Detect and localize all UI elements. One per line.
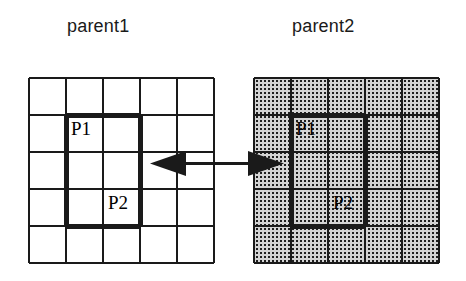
arrow-head-left bbox=[150, 151, 186, 176]
parent1-label-p2: P2 bbox=[108, 193, 128, 212]
parent1-label-p1: P1 bbox=[71, 119, 91, 138]
diagram-canvas: parent1 parent2 bbox=[0, 0, 466, 281]
parent2-label-p2: P2 bbox=[333, 193, 353, 212]
parent1-title: parent1 bbox=[67, 16, 129, 37]
exchange-arrow-icon bbox=[146, 146, 288, 182]
arrow-head-right bbox=[248, 151, 284, 176]
parent2-label-p1: P1 bbox=[296, 119, 316, 138]
parent2-title: parent2 bbox=[292, 16, 354, 37]
